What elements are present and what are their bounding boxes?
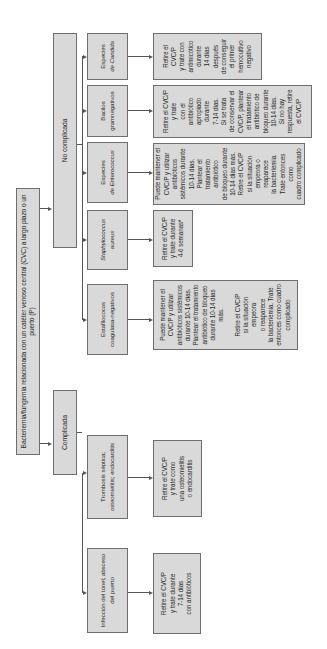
node-label: Estafilococos coagulasa-negativos xyxy=(99,288,115,351)
node-label: Infección del túnel; absceso del puerto xyxy=(99,552,115,629)
connector xyxy=(128,592,149,593)
action-text: Retire el CVC/P y trate con antimicótico… xyxy=(162,37,253,76)
node-label-prefix: Especies xyxy=(99,41,107,72)
arrow-icon xyxy=(48,442,52,446)
node-label-italic: aureus xyxy=(108,231,115,249)
arrow-icon xyxy=(149,476,153,480)
arrow-icon xyxy=(149,171,153,175)
arrow-icon xyxy=(149,238,153,242)
arrow-icon xyxy=(83,471,87,475)
action-infeccion-tunel: Retire el CVC/P y trate durante 7-14 día… xyxy=(153,553,201,634)
arrow-icon xyxy=(83,55,87,59)
arrow-icon xyxy=(149,109,153,113)
arrow-icon xyxy=(149,55,153,59)
node-no-complicada-label: No complicada xyxy=(61,119,69,163)
connector xyxy=(77,432,82,433)
connector xyxy=(128,319,149,320)
arrow-icon xyxy=(149,591,153,595)
action-candida: Retire el CVC/P y trate con antimicótico… xyxy=(153,33,262,80)
node-no-complicada: No complicada xyxy=(53,33,77,248)
arrow-icon xyxy=(48,207,52,211)
node-label-italic: de Enterococcus xyxy=(108,150,115,195)
node-label: Trombosis séptica; osteomielitis; endoca… xyxy=(99,439,115,515)
connector xyxy=(82,56,83,320)
action-text: Puede mantener el CVC/P y utilizar antib… xyxy=(154,147,303,201)
arrow-icon xyxy=(149,318,153,322)
node-staph-aureus: Staphylococcus aureus xyxy=(87,210,128,270)
node-complicada-label: Complicada xyxy=(61,415,69,450)
arrow-icon xyxy=(83,171,87,175)
arrow-icon xyxy=(83,109,87,113)
action-text: Puede mantener el CVC/P y utilizar antib… xyxy=(159,284,292,346)
connector xyxy=(128,477,149,478)
action-estafilococos-coag-neg: Puede mantener el CVC/P y utilizar antib… xyxy=(153,280,298,350)
connector xyxy=(128,239,149,240)
connector xyxy=(128,110,149,111)
node-enterococcus: Especies de Enterococcus xyxy=(87,142,128,203)
action-trombosis: Retire el CVC/P y trate como una osteomi… xyxy=(153,440,202,517)
action-text: Retire el CVC/P y trate durante 7-14 día… xyxy=(160,572,193,615)
node-label: Especies de Candida xyxy=(99,41,115,72)
connector xyxy=(128,56,149,57)
root-label: Bacteriemia/fungemia relacionada con un … xyxy=(20,192,36,451)
flowchart: Bacteriemia/fungemia relacionada con un … xyxy=(0,0,327,649)
connector xyxy=(82,473,83,593)
arrow-icon xyxy=(83,238,87,242)
action-text: Retire el CVC/P y trate durante 4-6 sema… xyxy=(161,217,186,260)
action-staph-aureus: Retire el CVC/P y trate durante 4-6 sema… xyxy=(153,210,193,267)
node-candida: Especies de Candida xyxy=(87,33,128,80)
node-trombosis: Trombosis séptica; osteomielitis; endoca… xyxy=(87,435,128,519)
action-text: Retire el CVC/P y trate como una osteomi… xyxy=(161,456,194,501)
node-label-italic: Staphylococcus xyxy=(99,219,106,261)
node-label: Especies de Enterococcus xyxy=(99,150,115,195)
connector xyxy=(128,172,149,173)
node-bacilos-gramnegativos: Bacilos gramnegativos xyxy=(87,85,128,137)
action-bacilos-gramnegativos: Retire el CVC/P y trate con el antibióti… xyxy=(153,85,312,138)
node-label: Bacilos gramnegativos xyxy=(99,89,115,133)
node-complicada: Complicada xyxy=(53,390,77,475)
node-estafilococos-coag-neg: Estafilococos coagulasa-negativos xyxy=(87,284,128,355)
node-label: Staphylococcus aureus xyxy=(99,219,115,261)
root-node: Bacteriemia/fungemia relacionada con un … xyxy=(16,188,40,455)
arrow-icon xyxy=(83,318,87,322)
action-text: Retire el CVC/P y trate con el antibióti… xyxy=(162,89,303,134)
arrow-icon xyxy=(83,591,87,595)
action-enterococcus: Puede mantener el CVC/P y utilizar antib… xyxy=(153,143,305,205)
node-infeccion-tunel: Infección del túnel; absceso del puerto xyxy=(87,548,128,633)
node-label-prefix: Especies xyxy=(99,150,107,195)
node-label-italic: de Candida xyxy=(108,41,115,72)
